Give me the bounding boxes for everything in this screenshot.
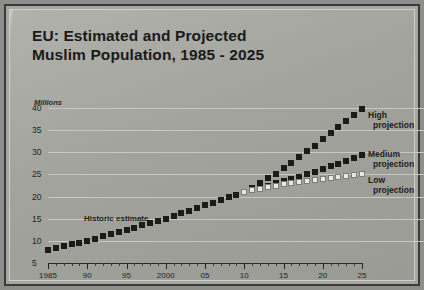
data-point-marker [249,187,255,193]
data-point-marker [241,189,247,195]
data-point-marker [296,154,302,160]
data-point-marker [359,106,365,112]
data-point-marker [343,173,349,179]
data-point-marker [288,180,294,186]
y-axis-tick-label: 30 [32,147,50,157]
data-point-marker [218,197,224,203]
legend-item-medium: Medium projection [368,150,414,169]
x-axis-tick-label: 15 [279,271,288,280]
data-point-marker [171,213,177,219]
data-point-marker [194,205,200,211]
x-axis-minor-tick [315,263,316,266]
gridline [48,108,424,109]
data-point-marker [320,166,326,172]
data-point-marker [69,241,75,247]
y-axis-tick-label: 35 [32,125,50,135]
data-point-marker [265,175,271,181]
annotation-historic-estimate: Historic estimate [84,214,148,223]
x-axis-minor-tick [252,263,253,266]
data-point-marker [202,202,208,208]
data-point-marker [343,158,349,164]
x-axis-minor-tick [79,263,80,266]
x-axis-tick [166,263,167,269]
x-axis-minor-tick [103,263,104,266]
data-point-marker [108,231,114,237]
x-axis-minor-tick [181,263,182,266]
x-axis-minor-tick [229,263,230,266]
data-point-marker [273,171,279,177]
x-axis-minor-tick [236,263,237,266]
data-point-marker [281,165,287,171]
x-axis-minor-tick [64,263,65,266]
data-point-marker [328,130,334,136]
data-point-marker [155,218,161,224]
legend-high-line-2: projection [368,121,414,131]
data-point-marker [304,148,310,154]
gridline [48,130,424,131]
x-axis-tick-label: 05 [201,271,210,280]
x-axis-minor-tick [197,263,198,266]
data-point-marker [265,184,271,190]
data-point-marker [61,243,67,249]
x-axis-minor-tick [346,263,347,266]
data-point-marker [312,143,318,149]
x-axis-minor-tick [72,263,73,266]
x-axis-minor-tick [307,263,308,266]
legend-medium-line-2: projection [368,160,414,170]
data-point-marker [186,208,192,214]
x-axis-minor-tick [213,263,214,266]
x-axis-tick-label: 95 [122,271,131,280]
gridline [48,241,424,242]
y-axis-tick-label: 10 [32,236,50,246]
data-point-marker [296,179,302,185]
chart-title-line-1: EU: Estimated and Projected [32,26,362,45]
data-point-marker [53,245,59,251]
data-point-marker [351,112,357,118]
x-axis-minor-tick [56,263,57,266]
x-axis-tick [323,263,324,269]
data-point-marker [359,152,365,158]
chart-frame-inner: EU: Estimated and Projected Muslim Popul… [9,9,415,281]
data-point-marker [84,238,90,244]
chart-title-line-2: Muslim Population, 1985 - 2025 [32,45,362,64]
data-point-marker [92,236,98,242]
data-point-marker [116,229,122,235]
x-axis-minor-tick [158,263,159,266]
data-point-marker [328,163,334,169]
chart-frame-outer: EU: Estimated and Projected Muslim Popul… [4,4,420,286]
y-axis-tick-label: 25 [32,169,50,179]
legend-item-high: High projection [368,111,414,130]
x-axis-minor-tick [119,263,120,266]
data-point-marker [335,161,341,167]
x-axis-minor-tick [276,263,277,266]
x-axis-minor-tick [174,263,175,266]
x-axis-tick [205,263,206,269]
data-point-marker [163,216,169,222]
x-axis-tick-label: 1985 [39,271,57,280]
data-point-marker [281,181,287,187]
x-axis-minor-tick [331,263,332,266]
x-axis-tick [362,263,363,269]
x-axis-minor-tick [221,263,222,266]
data-point-marker [343,118,349,124]
data-point-marker [312,177,318,183]
x-axis-tick [87,263,88,269]
data-point-marker [210,200,216,206]
plot-area: 403530252015105 1985909520000510152025 H… [32,108,362,263]
data-point-marker [320,176,326,182]
x-axis-minor-tick [189,263,190,266]
x-axis-tick [284,263,285,269]
data-point-marker [273,183,279,189]
x-axis-minor-tick [134,263,135,266]
x-axis-minor-tick [111,263,112,266]
data-point-marker [233,192,239,198]
x-axis-tick [244,263,245,269]
x-axis-tick-label: 10 [240,271,249,280]
x-axis-minor-tick [260,263,261,266]
data-point-marker [304,178,310,184]
x-axis-tick [127,263,128,269]
data-point-marker [178,210,184,216]
x-axis-minor-tick [142,263,143,266]
legend-item-low: Low projection [368,176,414,195]
data-point-marker [124,227,130,233]
